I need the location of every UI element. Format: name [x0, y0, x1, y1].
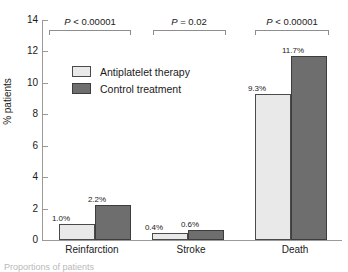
y-axis-title: % patients: [2, 57, 13, 147]
bar-value-reinfarction-control: 2.2%: [79, 195, 115, 204]
x-category-label-stroke: Stroke: [146, 244, 236, 256]
y-tick-label-10: 10: [8, 78, 38, 88]
bar-chart-figure: 14 12 10 8 6 4 2 0 % patients P < 0.0000…: [0, 0, 348, 272]
figure-caption: Proportions of patients: [4, 262, 94, 272]
bar-death-control: [291, 56, 327, 240]
bar-value-reinfarction-antiplatelet: 1.0%: [43, 214, 79, 223]
y-tick-label-8: 8: [8, 109, 38, 119]
y-tick-label-6: 6: [8, 141, 38, 151]
y-tick-label-4: 4: [8, 172, 38, 182]
bar-reinfarction-control: [95, 205, 131, 240]
x-category-label-reinfarction: Reinfarction: [42, 244, 142, 256]
y-tick-label-0: 0: [8, 235, 38, 245]
bar-death-antiplatelet: [255, 94, 291, 240]
x-category-label-death: Death: [250, 244, 340, 256]
bar-value-death-antiplatelet: 9.3%: [239, 84, 275, 93]
bar-value-stroke-antiplatelet: 0.4%: [136, 223, 172, 232]
y-tick-label-2: 2: [8, 204, 38, 214]
y-tick-label-12: 12: [8, 46, 38, 56]
bar-stroke-control: [188, 230, 224, 240]
bar-value-stroke-control: 0.6%: [172, 220, 208, 229]
x-axis-line: [42, 240, 342, 241]
y-tick-label-14: 14: [8, 15, 38, 25]
bar-reinfarction-antiplatelet: [59, 224, 95, 240]
bar-stroke-antiplatelet: [152, 233, 188, 240]
bar-value-death-control: 11.7%: [273, 46, 313, 55]
